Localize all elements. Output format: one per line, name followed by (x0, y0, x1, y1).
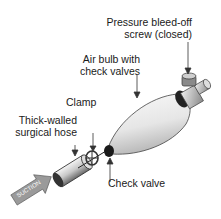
air-bulb-label-line2: check valves (70, 65, 140, 77)
pressure-screw-label: Pressure bleed-off screw (closed) (100, 16, 192, 40)
hose-label-line1: Thick-walled (0, 114, 77, 126)
hose-label-line2: surgical hose (0, 126, 77, 138)
hose-label: Thick-walled surgical hose (0, 114, 77, 138)
air-bulb-label: Air bulb with check valves (70, 53, 140, 77)
clamp-label: Clamp (66, 96, 96, 108)
air-bulb (104, 94, 190, 157)
check-valve (104, 145, 114, 157)
air-bulb-label-line1: Air bulb with (70, 53, 140, 65)
pressure-screw-label-line1: Pressure bleed-off (100, 16, 192, 28)
check-valve-label: Check valve (108, 177, 165, 189)
pressure-screw-label-line2: screw (closed) (100, 28, 192, 40)
